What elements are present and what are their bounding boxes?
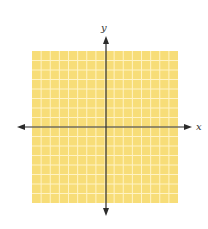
y-axis-label: y xyxy=(100,22,107,33)
x-axis-arrow-left-icon xyxy=(17,124,25,130)
coordinate-plane: x y xyxy=(0,0,208,229)
y-axis-arrow-down-icon xyxy=(103,208,109,216)
x-axis-arrow-right-icon xyxy=(184,124,192,130)
y-axis-arrow-up-icon xyxy=(103,36,109,44)
x-axis-label: x xyxy=(196,121,202,132)
